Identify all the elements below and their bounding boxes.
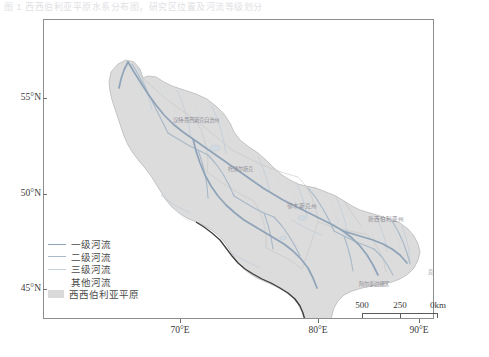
legend-swatch-line: [48, 244, 66, 245]
lon-tick-90e: [419, 319, 420, 323]
legend-item-primary-river[interactable]: 一级河流: [48, 238, 139, 251]
lat-tick-50n: [43, 194, 47, 195]
legend-label: 西西伯利亚平原: [69, 287, 139, 301]
scale-bar-tick: [362, 313, 363, 318]
lat-tick-45n: [43, 289, 47, 290]
legend-swatch-line: [48, 256, 66, 257]
scale-bar-tick: [437, 313, 438, 318]
scale-label-0km: 0km: [430, 300, 446, 310]
lon-label-90e: 90°E: [399, 325, 439, 335]
scale-bar-labels: 500 250 0km: [362, 300, 438, 312]
map-legend: 一级河流 二级河流 三级河流 其他河流 西西伯利亚平原: [48, 238, 139, 301]
lat-label-50n: 50°N: [12, 188, 41, 198]
legend-item-other-river[interactable]: 其他河流: [48, 276, 139, 289]
scale-bar: 500 250 0km: [362, 300, 438, 319]
legend-swatch-line: [48, 278, 66, 286]
legend-swatch-line: [48, 269, 66, 270]
legend-item-secondary-river[interactable]: 二级河流: [48, 251, 139, 264]
figure-caption: 图 1 西西伯利亚平原水系分布图，研究区位置及河流等级划分: [0, 0, 489, 14]
scale-label-250: 250: [393, 300, 407, 310]
lat-label-45n: 45°N: [12, 283, 41, 293]
lon-tick-80e: [318, 319, 319, 323]
map-figure: 图 1 西西伯利亚平原水系分布图，研究区位置及河流等级划分: [0, 0, 489, 357]
lat-tick-55n: [43, 98, 47, 99]
legend-item-plain-area[interactable]: 西西伯利亚平原: [48, 288, 139, 301]
scale-bar-tick: [400, 313, 401, 318]
lon-label-70e: 70°E: [160, 325, 200, 335]
legend-item-tertiary-river[interactable]: 三级河流: [48, 263, 139, 276]
scale-label-500: 500: [355, 300, 369, 310]
legend-swatch-box: [48, 290, 64, 298]
lon-label-80e: 80°E: [298, 325, 338, 335]
scale-bar-graphic: [362, 313, 438, 319]
lon-tick-70e: [180, 319, 181, 323]
lat-label-55n: 55°N: [12, 92, 41, 102]
